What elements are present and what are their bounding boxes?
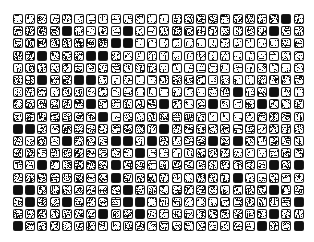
- icon-thumbnail-grid[interactable]: [0, 0, 314, 242]
- icon-grid-container: [0, 0, 314, 242]
